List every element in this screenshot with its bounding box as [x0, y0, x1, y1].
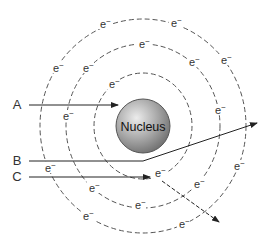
nucleus: Nucleus — [116, 99, 170, 153]
diagram-canvas: ABC Nucleus e−e−e−e−e−e−e−e−e−e−e−e−e−e−… — [0, 0, 271, 246]
rutherford-scattering-diagram: ABC Nucleus e−e−e−e−e−e−e−e−e−e−e−e−e−e−… — [0, 0, 271, 246]
nucleus-label: Nucleus — [120, 120, 165, 134]
particle-label-b: B — [13, 153, 22, 168]
deflected-path — [162, 181, 219, 222]
particle-label-a: A — [13, 97, 22, 112]
particle-label-c: C — [12, 169, 21, 184]
